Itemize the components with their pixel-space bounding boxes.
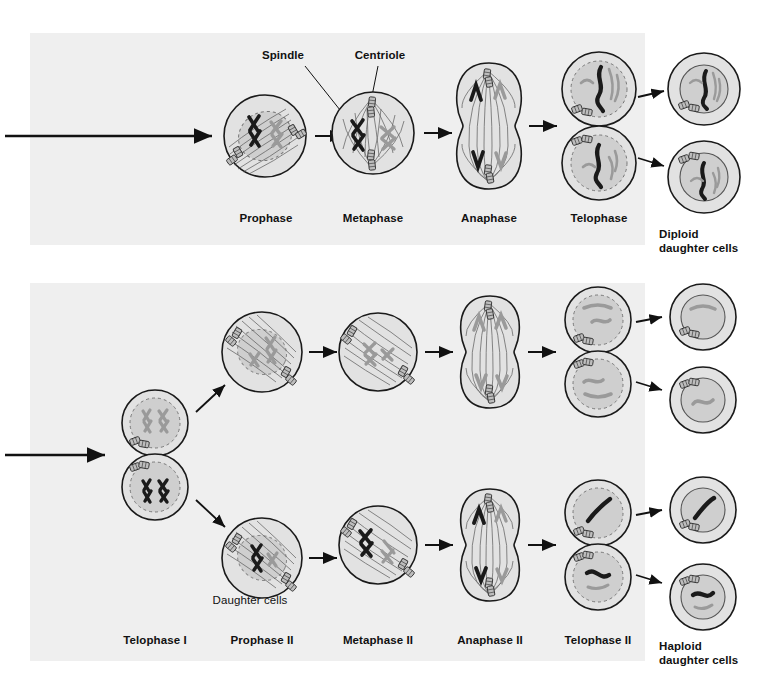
daughter-cells-label: Daughter cells xyxy=(213,594,288,606)
phase-label-metaphase: Metaphase xyxy=(343,212,403,224)
haploid-daughter-cell-1 xyxy=(670,284,736,350)
haploid-daughter-cell-4 xyxy=(670,564,736,630)
mitosis-panel xyxy=(30,33,645,245)
phase-label-telophase-1: Telophase I xyxy=(123,634,187,646)
haploid-daughter-cell-3 xyxy=(670,477,736,543)
phase-label-anaphase: Anaphase xyxy=(461,212,517,224)
phase-label-telophase-2: Telophase II xyxy=(565,634,632,646)
callout-spindle: Spindle xyxy=(262,49,304,61)
callout-centriole: Centriole xyxy=(355,49,406,61)
phase-label-prophase: Prophase xyxy=(239,212,292,224)
phase-label-metaphase-2: Metaphase II xyxy=(343,634,413,646)
diploid-daughter-cells-label-line1: Diploid xyxy=(659,228,699,240)
haploid-daughter-cells-label-line1: Haploid xyxy=(659,640,702,652)
diploid-daughter-cell-2 xyxy=(668,141,740,213)
haploid-daughter-cells-label-line2: daughter cells xyxy=(659,654,738,666)
phase-label-prophase-2: Prophase II xyxy=(230,634,293,646)
diploid-daughter-cell-1 xyxy=(668,53,740,125)
meiosis-panel xyxy=(30,283,645,661)
phase-label-anaphase-2: Anaphase II xyxy=(457,634,523,646)
phase-label-telophase: Telophase xyxy=(571,212,628,224)
diploid-daughter-cells-label-line2: daughter cells xyxy=(659,242,738,254)
haploid-daughter-cell-2 xyxy=(670,367,736,433)
